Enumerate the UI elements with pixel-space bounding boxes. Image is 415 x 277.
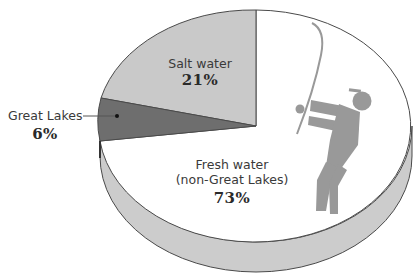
label-fresh-water-name-line2: (non-Great Lakes) xyxy=(166,172,298,187)
label-salt-water: Salt water 21% xyxy=(162,56,238,90)
label-fresh-water: Fresh water (non-Great Lakes) 73% xyxy=(166,157,298,208)
label-fresh-water-name-line1: Fresh water xyxy=(166,157,298,172)
label-salt-water-pct: 21% xyxy=(162,71,238,90)
label-salt-water-name: Salt water xyxy=(162,56,238,71)
label-great-lakes-pct: 6% xyxy=(8,125,82,144)
label-great-lakes-name: Great Lakes xyxy=(8,108,82,123)
label-great-lakes: Great Lakes 6% xyxy=(8,108,82,144)
great-lakes-leader-dot xyxy=(115,114,119,118)
label-fresh-water-pct: 73% xyxy=(166,189,298,208)
